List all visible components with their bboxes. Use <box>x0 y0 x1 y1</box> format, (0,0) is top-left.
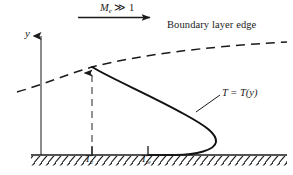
mach-number-label: Me ≫ 1 <box>100 3 134 14</box>
wall-temperature-label: Tw <box>141 154 151 165</box>
y-axis-label: y <box>25 28 30 39</box>
edge-temperature-label: Te <box>85 154 93 165</box>
mach-relation: ≫ 1 <box>112 2 135 13</box>
wall-temperature-subscript: w <box>147 158 151 165</box>
mach-symbol: M <box>100 2 109 13</box>
wall-surface <box>31 155 287 166</box>
wall-hatching <box>31 156 287 166</box>
profile-label-leader-line <box>196 95 220 112</box>
boundary-layer-edge-label: Boundary layer edge <box>167 20 256 31</box>
edge-temperature-subscript: e <box>91 158 94 165</box>
temperature-profile-label: T = T(y) <box>222 88 257 99</box>
boundary-layer-temperature-diagram: Me ≫ 1 Boundary layer edge y T = T(y) Te… <box>0 0 293 175</box>
boundary-layer-edge-curve <box>17 42 287 92</box>
